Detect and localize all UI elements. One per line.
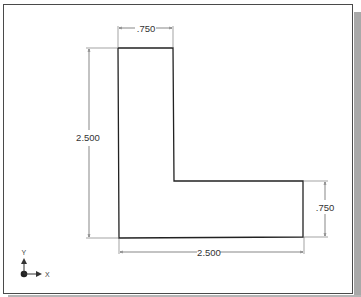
l-shape-profile[interactable] xyxy=(118,48,303,238)
dimension-right-height[interactable]: .750 xyxy=(303,181,334,237)
axis-triad: X Y xyxy=(21,249,50,278)
x-axis-label: X xyxy=(45,271,50,278)
dimension-text-bottom-width[interactable]: 2.500 xyxy=(197,247,221,258)
x-axis-arrow-icon xyxy=(36,271,42,277)
dimension-text-right-height[interactable]: .750 xyxy=(316,202,335,213)
dimension-text-left-height[interactable]: 2.500 xyxy=(76,132,100,143)
sketch-canvas[interactable]: .750 2.500 .750 2.500 X Y xyxy=(0,0,361,297)
dimension-left-height[interactable]: 2.500 xyxy=(76,48,119,238)
dimension-text-top-width[interactable]: .750 xyxy=(137,23,156,34)
y-axis-label: Y xyxy=(22,249,27,256)
y-axis-arrow-icon xyxy=(21,258,27,264)
dimension-top-width[interactable]: .750 xyxy=(118,23,173,49)
dimension-bottom-width[interactable]: 2.500 xyxy=(119,237,304,258)
